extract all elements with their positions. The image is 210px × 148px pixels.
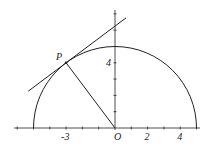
x-tick-label-neg3: -3 (61, 131, 69, 142)
x-tick-label-4: 4 (177, 131, 182, 142)
geometry-diagram: P O -3 2 4 4 (0, 0, 210, 148)
label-p: P (55, 51, 62, 62)
y-tick-label-4: 4 (106, 57, 111, 68)
x-tick-label-2: 2 (145, 131, 150, 142)
label-origin: O (114, 131, 121, 142)
point-p (65, 62, 68, 65)
segment-op (66, 63, 115, 128)
tangent-line (28, 18, 126, 91)
